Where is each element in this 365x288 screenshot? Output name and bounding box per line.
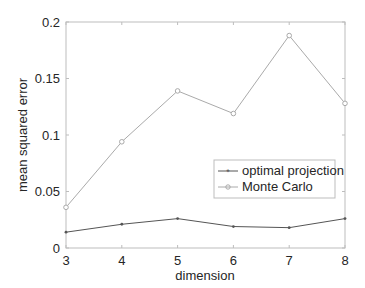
y-axis-label: mean squared error — [15, 77, 30, 192]
y-tick-015: 0.15 — [35, 71, 60, 86]
line-chart: 0 0.05 0.1 0.15 0.2 3 4 5 6 7 8 dimensio… — [0, 0, 365, 288]
legend-label-montecarlo: Monte Carlo — [242, 179, 313, 194]
star-marker-icon — [344, 217, 347, 220]
star-marker-icon — [176, 217, 179, 220]
y-tick-0: 0 — [53, 241, 60, 256]
series-line-0 — [66, 219, 345, 233]
circle-marker-icon — [287, 33, 292, 38]
x-tick-5: 5 — [174, 253, 181, 268]
x-tick-8: 8 — [341, 253, 348, 268]
circle-marker-icon — [231, 111, 236, 116]
star-marker-icon — [232, 225, 235, 228]
x-axis-label: dimension — [175, 268, 234, 283]
legend: * optimal projection Monte Carlo — [214, 160, 344, 198]
x-tick-7: 7 — [286, 253, 293, 268]
plot-area — [66, 22, 345, 248]
series-layer — [64, 33, 348, 233]
y-tick-01: 0.1 — [42, 128, 60, 143]
circle-marker-icon — [343, 101, 348, 106]
x-tick-6: 6 — [230, 253, 237, 268]
star-marker-icon — [288, 226, 291, 229]
circle-marker-icon — [64, 205, 69, 210]
y-tick-02: 0.2 — [42, 15, 60, 30]
star-marker-icon: * — [226, 167, 230, 177]
x-tick-3: 3 — [62, 253, 69, 268]
star-marker-icon — [120, 223, 123, 226]
axes-box — [66, 22, 345, 248]
circle-marker-icon — [120, 139, 125, 144]
legend-label-optimal: optimal projection — [242, 163, 344, 178]
y-tick-005: 0.05 — [35, 184, 60, 199]
star-marker-icon — [65, 231, 68, 234]
x-tick-4: 4 — [118, 253, 125, 268]
circle-marker-icon — [175, 89, 180, 94]
